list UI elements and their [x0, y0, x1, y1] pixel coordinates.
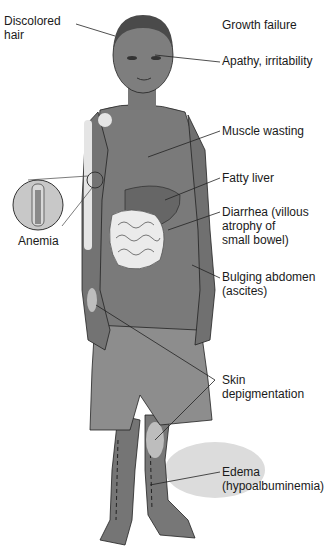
label-growth-failure: Growth failure — [222, 18, 297, 32]
label-discolored-hair: Discolored hair — [4, 14, 61, 42]
humerus-bone — [84, 120, 92, 250]
left-leg — [100, 415, 140, 545]
kwashiorkor-diagram: Discolored hair Growth failure Apathy, i… — [0, 0, 335, 558]
label-fatty-liver: Fatty liver — [222, 171, 274, 185]
label-bulging-abdomen: Bulging abdomen (ascites) — [222, 270, 315, 298]
label-edema: Edema (hypoalbuminemia) — [222, 465, 324, 493]
label-diarrhea: Diarrhea (villous atrophy of small bowel… — [222, 205, 309, 247]
label-skin-depigmentation: Skin depigmentation — [222, 373, 304, 401]
label-muscle-wasting: Muscle wasting — [222, 124, 304, 138]
label-apathy-irritability: Apathy, irritability — [222, 54, 312, 68]
label-anemia: Anemia — [18, 234, 59, 248]
small-bowel — [110, 210, 164, 269]
